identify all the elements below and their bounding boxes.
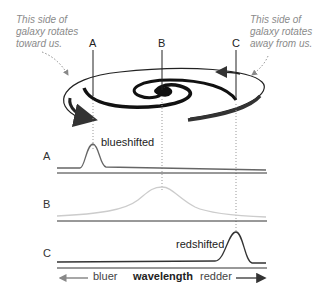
rotation-arrow-left — [70, 98, 92, 119]
redshifted-label: redshifted — [176, 238, 224, 250]
away-pointer — [252, 56, 268, 75]
blueshifted-label: blueshifted — [101, 136, 154, 148]
row-b-label: B — [43, 198, 50, 210]
row-a-label: A — [43, 150, 50, 162]
row-c-label: C — [43, 247, 51, 259]
point-b-label: B — [158, 37, 165, 49]
wavelength-text: wavelength — [133, 270, 193, 282]
wavelength-label: wavelength — [133, 270, 193, 282]
redder-label: redder — [200, 270, 232, 282]
spectrum-c-curve — [57, 232, 266, 263]
bluer-label: bluer — [93, 270, 117, 282]
point-a-label: A — [89, 37, 96, 49]
spiral-arm-2 — [134, 80, 236, 100]
point-c-label: C — [232, 37, 240, 49]
spectrum-b-curve — [57, 187, 266, 217]
toward-pointer — [42, 52, 68, 75]
